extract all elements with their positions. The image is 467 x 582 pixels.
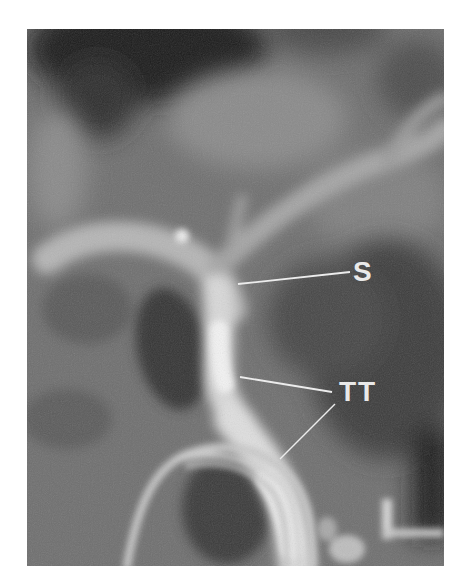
label-s: S: [353, 258, 373, 286]
radiograph-image: S TT: [27, 29, 444, 566]
label-tt: TT: [339, 378, 377, 406]
radiograph-rendering: [27, 29, 444, 566]
